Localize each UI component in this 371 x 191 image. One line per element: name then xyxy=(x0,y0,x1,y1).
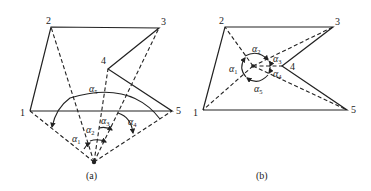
vertex-label: 1 xyxy=(20,107,25,118)
arc-b-alpha5 xyxy=(247,75,268,81)
vertex-label: 2 xyxy=(219,15,224,26)
angle-label-alpha5: α5 xyxy=(89,83,98,95)
angle-label-alpha3: α3 xyxy=(101,115,110,127)
observer-point-b xyxy=(251,64,255,68)
angle-label-alpha4: α4 xyxy=(128,116,137,128)
angle-label-alpha1: α1 xyxy=(229,63,238,75)
arc-b-alpha3 xyxy=(269,61,270,66)
vertex-label: 2 xyxy=(46,15,51,26)
vertex-label: 5 xyxy=(351,104,356,115)
caption-b: (b) xyxy=(256,170,268,182)
angle-label-alpha5: α5 xyxy=(254,83,263,95)
angle-label-alpha2: α2 xyxy=(252,43,261,55)
arc-b-alpha4 xyxy=(269,67,270,73)
vertex-label: 1 xyxy=(193,107,198,118)
polygon-angle-diagram: 1 2 3 4 5 α1 α2 α3 α4 α5 (a) xyxy=(0,0,371,191)
caption-a: (a) xyxy=(86,170,97,182)
vertex-label: 3 xyxy=(161,16,166,27)
angle-label-alpha2: α2 xyxy=(86,124,95,136)
angle-label-alpha1: α1 xyxy=(72,133,81,145)
angle-labels-b: α1 α2 α3 α4 α5 xyxy=(229,43,282,95)
vertex-label: 4 xyxy=(290,61,295,72)
ray-b-5 xyxy=(253,66,347,110)
ray-b-2 xyxy=(225,27,253,66)
ray-a-1 xyxy=(30,111,94,162)
angle-label-alpha4: α4 xyxy=(273,68,282,80)
vertex-label: 5 xyxy=(176,105,181,116)
rays-a xyxy=(30,27,172,162)
observer-point-a xyxy=(92,160,96,164)
panel-b: 1 2 3 4 5 α1 α2 α3 α4 α5 (b) xyxy=(193,15,356,182)
arc-b-alpha1 xyxy=(242,58,246,77)
ray-b-1 xyxy=(203,66,253,110)
vertex-label: 4 xyxy=(101,55,106,66)
polygon-outline-a xyxy=(30,27,172,111)
angle-label-alpha3: α3 xyxy=(273,53,282,65)
panel-a: 1 2 3 4 5 α1 α2 α3 α4 α5 (a) xyxy=(20,15,181,182)
vertex-label: 3 xyxy=(335,16,340,27)
